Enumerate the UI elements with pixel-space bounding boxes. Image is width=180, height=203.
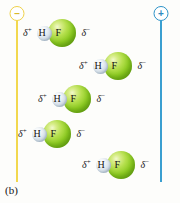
fluorine-sphere <box>48 19 76 47</box>
partial-negative-label: δ− <box>77 128 86 139</box>
fluorine-label: F <box>56 28 62 38</box>
hf-molecule: δ+ H F δ− <box>18 119 85 149</box>
hf-molecule: δ+ H F δ− <box>79 51 146 81</box>
partial-positive-label: δ+ <box>82 159 91 170</box>
fluorine-sphere <box>43 120 71 148</box>
fluorine-label: F <box>112 61 118 71</box>
panel-label: (b) <box>5 185 18 196</box>
hf-atom-pair: H F <box>49 84 95 114</box>
partial-positive-label: δ+ <box>23 27 32 38</box>
partial-negative-label: δ− <box>97 93 106 104</box>
hydrogen-label: H <box>95 61 102 71</box>
fluorine-sphere <box>63 85 91 113</box>
partial-positive-label: δ+ <box>79 60 88 71</box>
negative-electrode-wire <box>16 20 18 182</box>
fluorine-label: F <box>115 160 121 170</box>
hf-atom-pair: H F <box>34 18 80 48</box>
hf-molecule: δ+ H F δ− <box>82 150 149 180</box>
partial-negative-label: δ− <box>138 60 147 71</box>
fluorine-label: F <box>71 94 77 104</box>
hydrogen-label: H <box>98 160 105 170</box>
positive-electrode-wire <box>160 20 162 182</box>
hydrogen-label: H <box>54 94 61 104</box>
fluorine-sphere <box>107 151 135 179</box>
partial-negative-label: δ− <box>141 159 150 170</box>
partial-positive-label: δ+ <box>38 93 47 104</box>
partial-negative-label: δ− <box>82 27 91 38</box>
fluorine-label: F <box>51 129 57 139</box>
positive-electrode: + <box>148 0 174 186</box>
hydrogen-label: H <box>34 129 41 139</box>
hf-molecule: δ+ H F δ− <box>23 18 90 48</box>
hf-atom-pair: H F <box>29 119 75 149</box>
plus-sign-icon: + <box>158 9 164 19</box>
hf-atom-pair: H F <box>93 150 139 180</box>
hf-dipole-alignment-figure: – + δ+ H F δ− δ+ H F δ− δ+ <box>0 0 180 203</box>
hf-atom-pair: H F <box>90 51 136 81</box>
hydrogen-label: H <box>39 28 46 38</box>
hf-molecule: δ+ H F δ− <box>38 84 105 114</box>
fluorine-sphere <box>104 52 132 80</box>
minus-sign-icon: – <box>14 9 20 19</box>
partial-positive-label: δ+ <box>18 128 27 139</box>
positive-electrode-terminal: + <box>154 6 169 21</box>
